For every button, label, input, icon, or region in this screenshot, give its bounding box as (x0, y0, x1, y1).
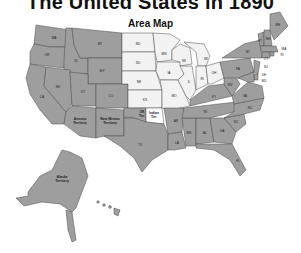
label-nh: NH (266, 37, 271, 41)
label-md: MD (262, 79, 268, 83)
label-wv: WV (227, 83, 233, 87)
label-nm: New MexicoTerritory (100, 117, 119, 125)
label-sc: SC (234, 120, 239, 124)
region-wy[interactable] (88, 58, 122, 84)
label-ri: RI (280, 53, 283, 57)
label-il: IL (188, 80, 191, 84)
label-ut: UT (81, 90, 85, 94)
label-nd: ND (136, 42, 141, 46)
label-al: AL (203, 131, 207, 135)
region-hi-2[interactable] (103, 204, 106, 207)
label-ne: NE (137, 80, 141, 84)
label-wa: WA (51, 36, 57, 40)
label-mt: MT (98, 42, 103, 46)
label-ms: MS (187, 131, 192, 135)
label-nc: NC (248, 106, 253, 110)
region-nj[interactable] (254, 60, 260, 74)
label-fl: FL (236, 159, 240, 163)
label-ok: OKTer. (139, 110, 145, 118)
label-de: DE (262, 73, 266, 77)
label-co: CO (109, 94, 114, 98)
label-az: ArizonaTerritory (73, 117, 87, 125)
region-hi-4[interactable] (114, 208, 120, 216)
region-hi-3[interactable] (109, 206, 112, 209)
region-hi-1[interactable] (97, 201, 99, 203)
label-mi: MI (204, 57, 208, 61)
us-map: WA OR CA ID NV MT WY UT CO ArizonaTerrit… (0, 0, 301, 253)
label-sd: SD (136, 61, 141, 65)
label-nj: NJ (264, 65, 268, 69)
label-wy: WY (99, 69, 105, 73)
label-ma: MA (282, 47, 288, 51)
label-ks: KS (143, 98, 147, 102)
label-tn: TN (203, 110, 208, 114)
label-or: OR (45, 53, 50, 57)
label-vt: VT (258, 39, 262, 43)
label-me: ME (276, 23, 281, 27)
region-ny[interactable] (222, 40, 262, 58)
region-ne[interactable] (122, 71, 162, 90)
region-ma[interactable] (260, 46, 278, 52)
label-mo: MO (171, 94, 177, 98)
region-ak[interactable] (16, 150, 88, 212)
region-ri[interactable] (270, 52, 274, 56)
label-wi: WI (182, 59, 186, 63)
label-ar: AR (174, 119, 179, 123)
region-de[interactable] (254, 74, 258, 80)
label-mn: MN (162, 52, 168, 56)
label-oh: OH (212, 71, 217, 75)
label-ak: AlaskaTerritory (55, 175, 69, 183)
region-ak-panhandle[interactable] (66, 210, 76, 242)
label-ct: CT (264, 57, 268, 61)
